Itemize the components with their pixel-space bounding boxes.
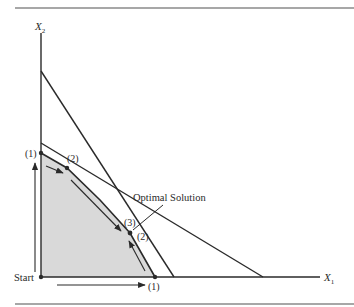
vertex-x-axis-1 bbox=[153, 275, 157, 279]
optimal-solution-label: Optimal Solution bbox=[133, 192, 206, 203]
x-axis-label: X1 bbox=[323, 271, 335, 286]
y-axis-label: X2 bbox=[34, 20, 46, 35]
vertex-y-axis-label: (1) bbox=[25, 148, 37, 160]
optimum-upper-label: (3) bbox=[124, 217, 136, 229]
vertex-upper-2 bbox=[65, 166, 69, 170]
vertex-optimal bbox=[128, 231, 133, 236]
start-label: Start bbox=[14, 272, 34, 283]
vertex-x-axis-label: (1) bbox=[148, 281, 160, 293]
optimal-leader-line bbox=[133, 205, 163, 230]
lp-diagram: X2 X1 Start (1) (2) (3) (2) (1) Optimal … bbox=[0, 0, 354, 307]
vertex-y-axis-1 bbox=[39, 151, 43, 155]
optimum-right-label: (2) bbox=[137, 231, 149, 243]
vertex-upper-label: (2) bbox=[67, 153, 79, 165]
vertex-start bbox=[39, 275, 43, 279]
